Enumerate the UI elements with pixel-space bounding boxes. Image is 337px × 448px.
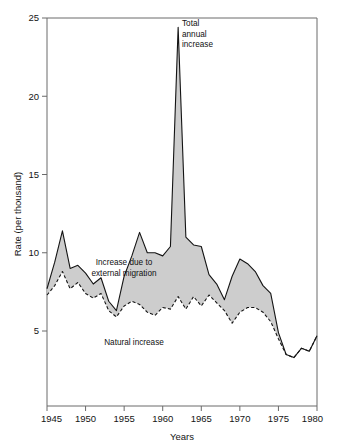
x-tick-label-1980: 1980	[302, 413, 323, 424]
x-tick-label-1970: 1970	[229, 413, 250, 424]
y-tick-label-20: 20	[28, 91, 39, 102]
y-tick-label-5: 5	[34, 325, 39, 336]
y-tick-label-10: 10	[28, 247, 39, 258]
y-axis-title: Rate (per thousand)	[12, 172, 23, 257]
annotation-natural-increase: Natural increase	[104, 338, 164, 347]
y-tick-label-25: 25	[28, 12, 39, 23]
x-tick-label-1945: 1945	[41, 413, 62, 424]
migration-band-area	[47, 27, 317, 357]
x-tick-label-1975: 1975	[268, 413, 289, 424]
y-tick-label-15: 15	[28, 169, 39, 180]
x-axis-tick-labels: 19451950195519601965197019751980	[41, 413, 323, 424]
population-rate-chart: 510152025 194519501955196019651970197519…	[0, 0, 337, 448]
annotation-total-annual-increase: Totalannualincrease	[182, 19, 213, 49]
y-axis-tick-labels: 510152025	[28, 12, 39, 336]
x-tick-label-1955: 1955	[114, 413, 135, 424]
chart-container: 510152025 194519501955196019651970197519…	[0, 0, 337, 448]
x-axis-title: Years	[170, 431, 194, 442]
x-axis-ticks	[47, 406, 317, 411]
x-tick-label-1950: 1950	[75, 413, 96, 424]
annotation-external-migration: Increase due toexternal migration	[91, 258, 157, 278]
x-tick-label-1965: 1965	[191, 413, 212, 424]
x-tick-label-1960: 1960	[152, 413, 173, 424]
y-axis-ticks	[42, 18, 47, 331]
